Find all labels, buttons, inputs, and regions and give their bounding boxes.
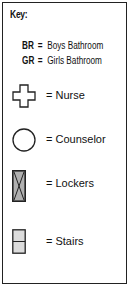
abbr-equals: = bbox=[35, 55, 45, 66]
abbr-code: GR bbox=[22, 55, 35, 66]
legend-label-stairs: = Stairs bbox=[46, 235, 84, 247]
legend-label-lockers: = Lockers bbox=[46, 177, 94, 189]
abbr-row-boys-bathroom: BR= Boys Bathroom bbox=[22, 40, 103, 51]
key-title: Key: bbox=[10, 9, 27, 20]
abbr-row-girls-bathroom: GR= Girls Bathroom bbox=[22, 55, 102, 66]
abbr-equals: = bbox=[35, 40, 45, 51]
abbr-meaning: Boys Bathroom bbox=[47, 40, 103, 51]
legend-label-counselor: = Counselor bbox=[46, 133, 106, 145]
legend-label-nurse: = Nurse bbox=[46, 89, 85, 101]
circle-icon bbox=[12, 128, 36, 152]
abbr-code: BR bbox=[22, 40, 35, 51]
cross-icon bbox=[12, 84, 36, 108]
locker-icon bbox=[12, 170, 26, 202]
stairs-icon bbox=[12, 229, 26, 254]
abbr-meaning: Girls Bathroom bbox=[47, 55, 102, 66]
